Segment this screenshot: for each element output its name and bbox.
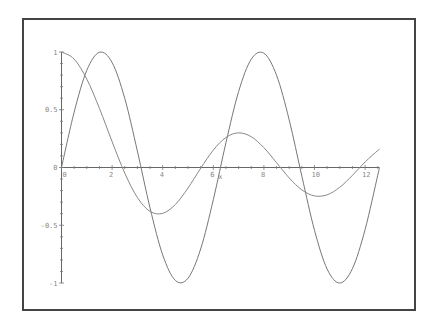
x-tick-label: 0 xyxy=(63,171,67,179)
axes: 024681012 -1-0.500.51 x xyxy=(41,49,380,288)
y-tick-label: 1 xyxy=(53,49,57,57)
x-tick-label: 4 xyxy=(160,171,164,179)
y-tick-label: 0.5 xyxy=(45,106,58,114)
y-tick-label: -0.5 xyxy=(41,222,58,230)
x-tick-label: 10 xyxy=(312,171,320,179)
x-tick-label: 6 xyxy=(210,171,214,179)
y-tick-label: 0 xyxy=(53,164,57,172)
x-tick-label: 8 xyxy=(261,171,265,179)
chart-plot-area: 024681012 -1-0.500.51 x xyxy=(0,0,441,331)
y-tick-label: -1 xyxy=(49,280,57,288)
series-line-1 xyxy=(62,52,380,214)
x-tick-label: 2 xyxy=(109,171,113,179)
y-ticks: -1-0.500.51 xyxy=(41,49,64,288)
x-tick-label: 12 xyxy=(362,171,370,179)
